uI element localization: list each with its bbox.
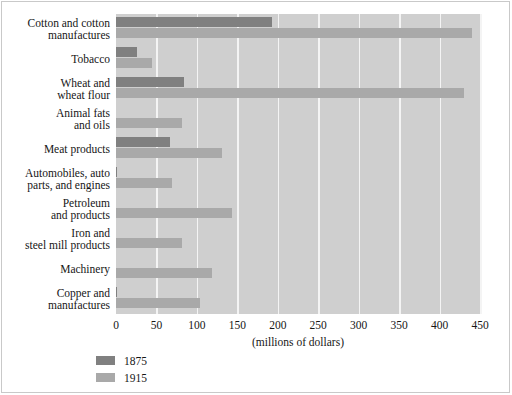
bar-1915 (116, 118, 182, 128)
bar-group (116, 104, 480, 134)
bar-1875 (116, 77, 184, 87)
legend-swatch (96, 356, 115, 365)
x-tick-label: 450 (471, 318, 488, 332)
bar-1875 (116, 287, 117, 297)
bar-group (116, 44, 480, 74)
gridline (480, 14, 482, 314)
chart-figure: Cotton and cotton manufacturesTobaccoWhe… (0, 0, 512, 395)
x-axis-ticks: 050100150200250300350400450 (0, 318, 512, 334)
category-label: Automobiles, auto parts, and engines (0, 167, 110, 192)
bar-1915 (116, 88, 464, 98)
bar-group (116, 164, 480, 194)
plot-area (116, 14, 480, 314)
bar-1915 (116, 298, 200, 308)
bar-group (116, 134, 480, 164)
category-label: Petroleum and products (0, 197, 110, 222)
bar-group (116, 14, 480, 44)
category-label: Iron and steel mill products (0, 227, 110, 252)
legend-swatch (96, 373, 115, 382)
legend-item: 1915 (96, 369, 147, 386)
x-tick-label: 350 (390, 318, 407, 332)
bar-1915 (116, 28, 472, 38)
bar-1875 (116, 137, 170, 147)
legend-label: 1875 (124, 355, 147, 367)
category-label: Wheat and wheat flour (0, 77, 110, 102)
bar-group (116, 194, 480, 224)
bar-group (116, 74, 480, 104)
category-label: Tobacco (0, 53, 110, 66)
category-axis-labels: Cotton and cotton manufacturesTobaccoWhe… (0, 14, 110, 314)
category-label: Copper and manufactures (0, 287, 110, 312)
x-tick-label: 150 (229, 318, 246, 332)
bar-1915 (116, 238, 182, 248)
category-label: Animal fats and oils (0, 107, 110, 132)
bar-group (116, 224, 480, 254)
bar-1875 (116, 167, 117, 177)
bar-1875 (116, 17, 272, 27)
bar-1915 (116, 58, 152, 68)
category-label: Cotton and cotton manufactures (0, 17, 110, 42)
legend: 18751915 (96, 352, 147, 386)
x-tick-label: 250 (310, 318, 327, 332)
x-axis-title: (millions of dollars) (116, 336, 480, 348)
bar-1915 (116, 178, 172, 188)
x-tick-label: 300 (350, 318, 367, 332)
x-tick-label: 400 (431, 318, 448, 332)
bar-1915 (116, 268, 212, 278)
x-tick-label: 50 (151, 318, 163, 332)
legend-label: 1915 (124, 372, 147, 384)
bar-1915 (116, 148, 222, 158)
bar-group (116, 284, 480, 314)
x-tick-label: 100 (188, 318, 205, 332)
category-label: Meat products (0, 143, 110, 156)
bar-1875 (116, 47, 137, 57)
x-tick-label: 0 (113, 318, 119, 332)
x-tick-label: 200 (269, 318, 286, 332)
category-label: Machinery (0, 263, 110, 276)
bar-1915 (116, 208, 232, 218)
legend-item: 1875 (96, 352, 147, 369)
bar-group (116, 254, 480, 284)
